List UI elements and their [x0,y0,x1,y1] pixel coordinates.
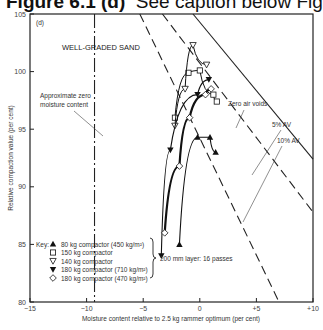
square-marker [211,92,216,97]
square-marker [50,250,55,255]
y-tick-label: 105 [14,11,26,18]
five-percent-av-label: 5% AV [272,121,292,128]
series-1 [176,134,219,247]
zero-air-voids-label: Zero air voids [228,100,268,107]
series-curve [179,137,215,244]
y-tick-label: 95 [18,126,26,133]
data-series [158,43,219,260]
triangle-up-marker [176,241,182,247]
diamond-marker [176,163,183,170]
zero-moisture-label-2: moisture content [40,101,88,108]
legend-entry: 80 kg compactor (450 kg/m²) [61,241,144,249]
y-tick-label: 90 [18,183,26,190]
square-marker [214,99,219,104]
x-axis-label: Moisture content relative to 2.5 kg ramm… [82,315,260,323]
triangle-up-marker [50,241,56,247]
panel-label: (d) [36,19,44,27]
square-marker [197,68,202,73]
x-tick-label: 0 [198,305,202,312]
triangle-down-open-marker [203,62,209,68]
series-curve [161,80,209,256]
x-tick-label: −10 [81,305,93,312]
y-axis-label: Relative compaction value (per cent) [7,105,15,211]
y-tick-label: 80 [18,299,26,306]
zero-moisture-leader [74,111,103,136]
zero-moisture-label-1: Approximate zero [40,92,91,100]
series-curve [165,89,211,233]
legend-entry: 180 kg compactor (710 kg/m²) [61,266,148,274]
diamond-marker [208,86,215,93]
triangle-down-marker [50,267,56,273]
y-tick-label: 85 [18,241,26,248]
5-av-line [162,14,313,212]
legend-title: Key: [36,241,49,249]
x-tick-label: +10 [307,305,319,312]
x-tick-label: −15 [24,305,36,312]
legend-entry: 140 kg compactor [61,258,114,266]
legend-brace [150,238,156,278]
x-tick-label: −5 [139,305,147,312]
y-tick-label: 100 [14,68,26,75]
chart-title: WELL-GRADED SAND [62,43,141,52]
triangle-down-marker [167,147,173,153]
legend-group-note: 200 mm layer: 16 passes [160,255,233,263]
series-5 [161,86,214,237]
legend-entry: 180 kg compactor (470 kg/m²) [61,275,148,283]
compaction-chart: −15−10−50+5+1080859095100105 (d) WELL-GR… [0,0,323,330]
triangle-down-open-marker [50,258,56,264]
ten-percent-av-label: 10% AV [277,137,300,144]
legend: Key:80 kg compactor (450 kg/m²)150 kg co… [36,238,233,283]
av10-leader [243,146,282,222]
diamond-marker [50,275,57,282]
triangle-down-open-marker [182,86,188,92]
x-tick-label: +5 [252,305,260,312]
legend-entry: 150 kg compactor [61,249,114,257]
